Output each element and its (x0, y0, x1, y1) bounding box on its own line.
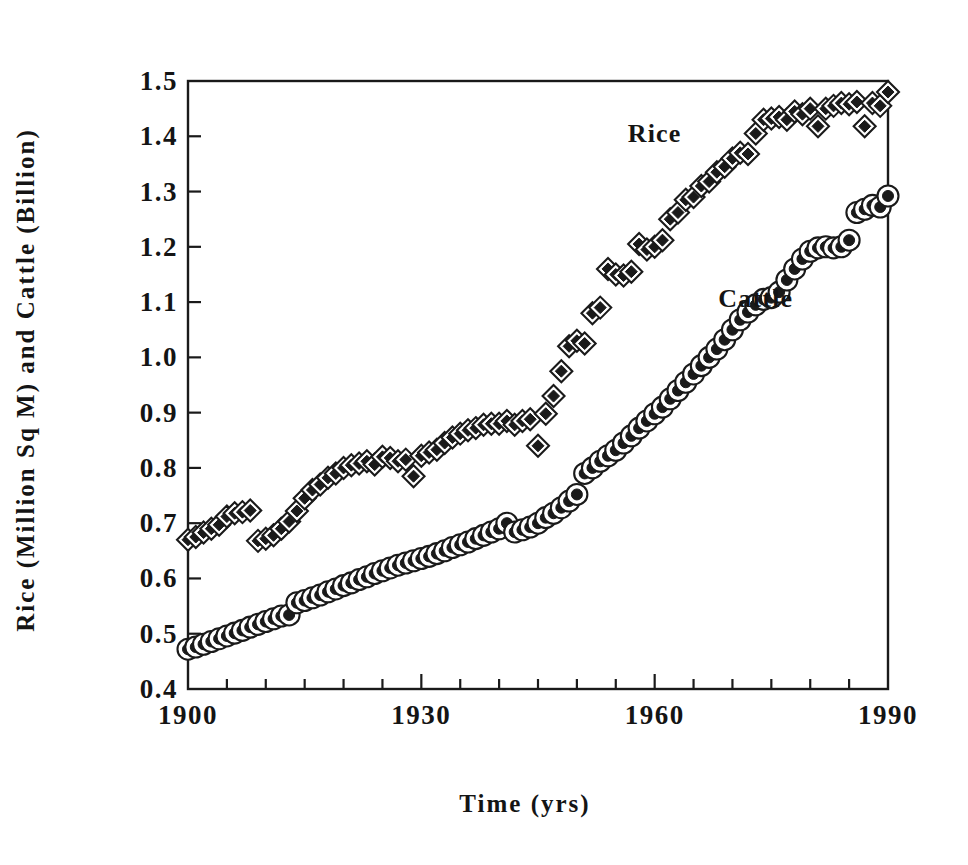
plot-area (0, 0, 968, 865)
series-annotation-cattle: Cattle (718, 284, 793, 314)
series-rice-points (177, 81, 899, 552)
chart-figure: Rice (Million Sq M) and Cattle (Billion)… (0, 0, 968, 865)
series-annotation-rice: Rice (628, 119, 682, 149)
